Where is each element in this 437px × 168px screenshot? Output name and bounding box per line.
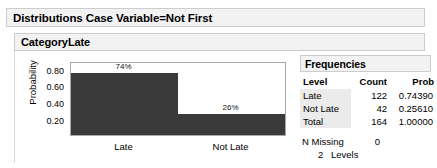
cell-count-late: 122 xyxy=(351,89,389,102)
cell-count-not-late: 42 xyxy=(351,102,389,115)
levels-row: 2 Levels xyxy=(300,149,436,162)
y-tick-label-1: 0.60 xyxy=(38,83,64,92)
cell-prob-late: 0.74390 xyxy=(389,89,436,102)
cell-level-late: Late xyxy=(300,89,351,102)
report-outline-title[interactable]: Distributions Case Variable=Not First xyxy=(6,8,425,27)
cell-prob-not-late: 0.25610 xyxy=(389,102,436,115)
bar-label-late: 74% xyxy=(116,62,132,71)
levels-label: Levels xyxy=(331,149,358,160)
distribution-report: Distributions Case Variable=Not First Ca… xyxy=(0,0,437,168)
category-panel-label: CategoryLate xyxy=(21,36,90,48)
levels-count: 2 xyxy=(318,149,323,160)
frequencies-footer: N Missing 0 2 Levels xyxy=(300,136,436,162)
bar-late[interactable] xyxy=(71,73,178,135)
plot-frame xyxy=(70,62,286,136)
n-missing-value: 0 xyxy=(366,136,380,147)
category-panel-title[interactable]: CategoryLate xyxy=(14,33,425,51)
cell-level-total: Total xyxy=(300,115,351,128)
table-row[interactable]: Late 122 0.74390 xyxy=(300,89,436,102)
column-header-prob[interactable]: Prob xyxy=(389,75,436,89)
bar-not-late[interactable] xyxy=(178,114,285,135)
frequencies-table: Level Count Prob Late 122 0.74390 Not La… xyxy=(300,75,436,128)
n-missing-label: N Missing xyxy=(302,136,344,147)
probability-bar-chart: Probability 0.80 0.60 0.40 0.20 74% 26% … xyxy=(18,55,294,165)
table-header-row: Level Count Prob xyxy=(300,75,436,89)
y-tick-label-0: 0.80 xyxy=(38,67,64,76)
y-tick-label-2: 0.40 xyxy=(38,100,64,109)
frequencies-title-label: Frequencies xyxy=(305,58,366,70)
frequencies-title[interactable]: Frequencies xyxy=(300,55,431,72)
n-missing-row: N Missing 0 xyxy=(300,136,436,149)
y-axis-ticks: 0.80 0.60 0.40 0.20 xyxy=(34,55,64,165)
cell-prob-total: 1.00000 xyxy=(389,115,436,128)
column-header-level[interactable]: Level xyxy=(300,75,351,89)
table-row[interactable]: Total 164 1.00000 xyxy=(300,115,436,128)
column-header-count[interactable]: Count xyxy=(351,75,389,89)
cell-count-total: 164 xyxy=(351,115,389,128)
x-tick-label-not-late: Not Late xyxy=(177,141,284,152)
y-tick-label-3: 0.20 xyxy=(38,117,64,126)
cell-level-not-late: Not Late xyxy=(300,102,351,115)
x-tick-label-late: Late xyxy=(70,141,177,152)
page-title: Distributions Case Variable=Not First xyxy=(13,12,212,24)
bar-label-not-late: 26% xyxy=(223,103,239,112)
frequencies-panel: Frequencies Level Count Prob Late 122 0.… xyxy=(300,55,436,168)
table-row[interactable]: Not Late 42 0.25610 xyxy=(300,102,436,115)
